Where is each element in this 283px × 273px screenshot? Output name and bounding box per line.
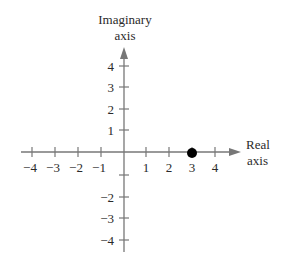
imaginary-axis-label-line1: Imaginary — [98, 12, 152, 27]
tick-label: −4 — [23, 160, 37, 175]
tick-label: 4 — [212, 160, 219, 175]
tick-label: 2 — [166, 160, 173, 175]
tick-label: −2 — [69, 160, 83, 175]
tick-label: −4 — [100, 233, 114, 248]
real-axis-label-line1: Real — [246, 137, 270, 152]
tick-label: −1 — [92, 160, 106, 175]
imaginary-axis-tick-labels: 4 3 2 1 −2 −3 −4 — [100, 59, 114, 248]
tick-label: −2 — [100, 190, 114, 205]
tick-label: 3 — [189, 160, 196, 175]
real-axis-arrow-icon — [229, 148, 241, 156]
tick-label: −3 — [100, 211, 114, 226]
complex-plane-diagram: Imaginary axis Real axis −4 −3 −2 −1 1 2… — [0, 0, 283, 273]
real-axis-label-line2: axis — [247, 153, 268, 168]
tick-label: −3 — [46, 160, 60, 175]
tick-label: 2 — [108, 102, 115, 117]
tick-label: 4 — [108, 59, 115, 74]
real-axis-tick-labels: −4 −3 −2 −1 1 2 3 4 — [23, 160, 219, 175]
tick-label: 1 — [108, 123, 115, 138]
tick-label: 1 — [143, 160, 150, 175]
point-marker — [187, 148, 197, 158]
tick-label: 3 — [108, 80, 115, 95]
imaginary-axis-arrow-icon — [120, 47, 128, 59]
imaginary-axis-label-line2: axis — [115, 28, 136, 43]
